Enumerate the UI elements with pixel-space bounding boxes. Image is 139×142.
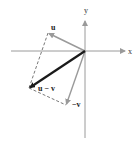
vector-u-minus-v xyxy=(30,51,85,88)
vector-diagram: x y u −v u − v xyxy=(0,0,139,142)
vector-u-label: u xyxy=(51,23,56,32)
vector-neg-v-label: −v xyxy=(72,100,81,109)
vector-neg-v xyxy=(67,51,86,104)
vector-u xyxy=(49,34,85,52)
y-axis-label: y xyxy=(84,6,88,15)
x-axis-label: x xyxy=(128,47,132,56)
dashed-edge-u-to-diff xyxy=(29,33,48,88)
vector-u-minus-v-label: u − v xyxy=(38,84,55,93)
